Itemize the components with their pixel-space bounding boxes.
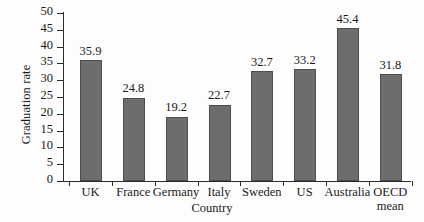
- y-axis-tick-label: 45: [41, 22, 54, 35]
- y-axis-tick-label: 20: [41, 106, 54, 119]
- category-label-line1: OECD: [373, 185, 407, 199]
- bars-layer: 35.924.819.222.732.733.245.431.8: [63, 13, 410, 181]
- bar-group[interactable]: 24.8: [112, 13, 155, 181]
- bar-value-label: 35.9: [69, 45, 112, 58]
- bar-group[interactable]: 22.7: [198, 13, 241, 181]
- category-label-line1: UK: [81, 185, 99, 199]
- bar-france[interactable]: [123, 98, 145, 181]
- x-axis-title: Country: [0, 201, 424, 216]
- bar-value-label: 22.7: [198, 89, 241, 102]
- bar-australia[interactable]: [337, 28, 359, 181]
- bar-value-label: 33.2: [283, 54, 326, 67]
- x-axis-line: [63, 181, 411, 182]
- y-axis-tick-label: 0: [47, 173, 53, 186]
- y-axis-tick-label: 5: [47, 156, 53, 169]
- y-axis-tick-label: 30: [41, 72, 54, 85]
- bar-germany[interactable]: [166, 117, 188, 182]
- y-axis-tick-label: 40: [41, 39, 54, 52]
- bar-oecd-mean[interactable]: [380, 74, 402, 181]
- bar-uk[interactable]: [80, 60, 102, 181]
- bar-group[interactable]: 19.2: [155, 13, 198, 181]
- bar-value-label: 24.8: [112, 82, 155, 95]
- bar-group[interactable]: 32.7: [240, 13, 283, 181]
- bar-group[interactable]: 35.9: [69, 13, 112, 181]
- y-axis-tick-label: 50: [41, 5, 54, 18]
- bar-us[interactable]: [294, 69, 316, 181]
- y-axis-tick-label: 15: [41, 123, 54, 136]
- y-axis-tick-label: 10: [41, 139, 54, 152]
- bar-group[interactable]: 31.8: [369, 13, 412, 181]
- bar-value-label: 31.8: [369, 59, 412, 72]
- category-label-line1: US: [297, 185, 313, 199]
- y-axis-title: Graduation rate: [19, 25, 34, 185]
- bar-sweden[interactable]: [251, 71, 273, 181]
- bar-italy[interactable]: [209, 105, 231, 181]
- bar-group[interactable]: 33.2: [283, 13, 326, 181]
- y-axis-tick-label: 35: [41, 55, 54, 68]
- bar-chart-figure: Graduation rate 50454035302520151050 35.…: [0, 0, 424, 222]
- bar-value-label: 45.4: [326, 13, 369, 26]
- bar-group[interactable]: 45.4: [326, 13, 369, 181]
- y-axis-tick-mark: [57, 181, 63, 182]
- y-axis-tick-label: 25: [41, 89, 54, 102]
- bar-value-label: 32.7: [240, 56, 283, 69]
- bar-value-label: 19.2: [155, 101, 198, 114]
